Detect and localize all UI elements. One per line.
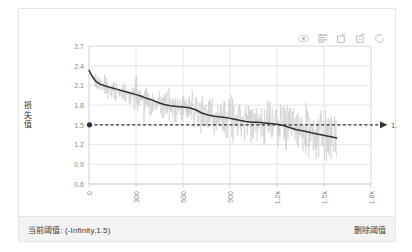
threshold-start-dot[interactable]: [87, 122, 92, 127]
x-axis-tick-label: 0: [86, 191, 93, 195]
threshold-arrow-head: [380, 121, 388, 128]
x-axis-tick-label: 1.5k: [321, 191, 328, 205]
y-axis-tick-label: 2.1: [74, 82, 84, 89]
y-axis-tick-label: 1.5: [74, 122, 84, 129]
chart-panel: 损失值: [19, 9, 395, 217]
threshold-chart-card: 损失值: [18, 8, 396, 242]
y-axis-tick-label: 0.9: [74, 161, 84, 168]
chart-plot-area[interactable]: 0.60.91.21.51.82.12.42.703006009001.2k1.…: [19, 9, 397, 217]
screenshot-root: 损失值: [0, 0, 412, 252]
card-footer: 当前阈值: (-Infinity,1.5) 删除阈值: [19, 216, 395, 241]
loss-threshold-chart[interactable]: 0.60.91.21.51.82.12.42.703006009001.2k1.…: [19, 9, 397, 217]
x-axis-tick-label: 900: [227, 191, 234, 203]
threshold-value-label: 1.5: [391, 121, 397, 130]
y-axis-tick-label: 1.8: [74, 102, 84, 109]
y-axis-tick-label: 2.4: [74, 63, 84, 70]
y-axis-tick-label: 1.2: [74, 141, 84, 148]
y-axis-tick-label: 0.6: [74, 181, 84, 188]
delete-threshold-button[interactable]: 删除阈值: [354, 224, 386, 235]
x-axis-tick-label: 1.2k: [274, 191, 281, 205]
x-axis-tick-label: 600: [180, 191, 187, 203]
y-axis-tick-label: 2.7: [74, 43, 84, 50]
x-axis-tick-label: 1.8k: [368, 191, 375, 205]
current-threshold-label: 当前阈值: (-Infinity,1.5): [28, 224, 110, 235]
x-axis-tick-label: 300: [133, 191, 140, 203]
